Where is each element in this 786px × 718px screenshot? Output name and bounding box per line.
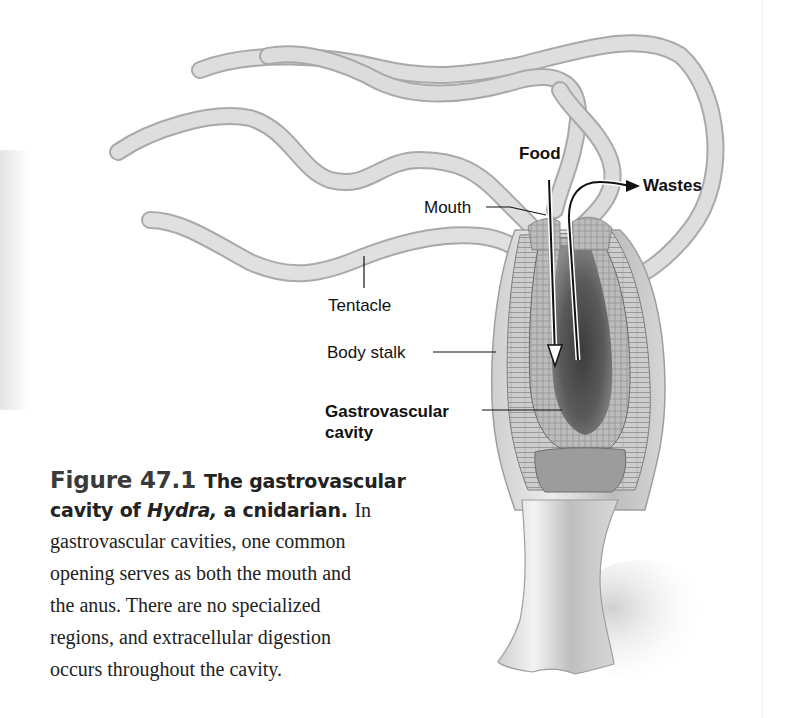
figure-caption: Figure 47.1The gastrovascular cavity of … — [50, 466, 470, 685]
caption-title: Figure 47.1The gastrovascular cavity of … — [50, 466, 470, 525]
lower-chamber — [535, 448, 626, 492]
caption-line: opening serves as both the mouth and — [50, 557, 470, 589]
label-tentacle: Tentacle — [328, 297, 391, 314]
figure-number: Figure 47.1 — [50, 467, 196, 493]
label-food: Food — [519, 145, 561, 162]
label-wastes: Wastes — [643, 177, 702, 194]
caption-line: occurs throughout the cavity. — [50, 653, 470, 685]
label-gastrovascular-line1: Gastrovascular — [325, 402, 449, 421]
stalk-foot — [498, 500, 618, 674]
caption-body: gastrovascular cavities, one common open… — [50, 525, 470, 685]
figure-title-part2: a cnidarian. — [217, 499, 348, 521]
label-gastrovascular-cavity: Gastrovascular cavity — [325, 401, 449, 443]
label-gastrovascular-line2: cavity — [325, 423, 373, 442]
label-body-stalk: Body stalk — [327, 344, 405, 361]
hypostome-right — [572, 217, 612, 250]
caption-lead-word: In — [355, 499, 371, 521]
label-mouth: Mouth — [424, 199, 471, 216]
caption-line: the anus. There are no specialized — [50, 589, 470, 621]
hypostome — [528, 219, 560, 250]
caption-line: regions, and extracellular digestion — [50, 621, 470, 653]
caption-line: gastrovascular cavities, one common — [50, 525, 470, 557]
figure-title-italic: Hydra, — [147, 499, 217, 521]
